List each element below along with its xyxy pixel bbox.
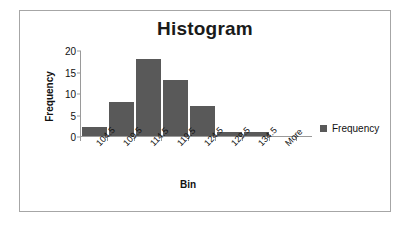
- y-axis-title: Frequency: [42, 55, 56, 137]
- chart-container: Histogram Frequency 05101520 104.5109.51…: [19, 10, 391, 212]
- x-axis-tick-labels: 104.5109.5114.5119.5124.5129.5134.5More: [80, 139, 296, 179]
- bar-114.5: [136, 59, 161, 136]
- legend-swatch-icon: [320, 125, 327, 132]
- axis-area: [80, 51, 296, 137]
- chart-legend: Frequency: [320, 123, 379, 134]
- y-axis-title-label: Frequency: [44, 71, 55, 122]
- y-tick-10: 10: [65, 89, 76, 100]
- x-axis-title: Bin: [80, 179, 296, 190]
- legend-entry-frequency: Frequency: [332, 123, 379, 134]
- y-tick-15: 15: [65, 67, 76, 78]
- bar-series: [81, 51, 296, 136]
- x-axis-line: [80, 136, 312, 137]
- plot-area: Frequency 05101520 104.5109.5114.5119.51…: [44, 51, 314, 151]
- bar-119.5: [163, 80, 188, 136]
- chart-title: Histogram: [20, 18, 390, 40]
- y-tick-20: 20: [65, 46, 76, 57]
- y-tick-0: 0: [70, 132, 76, 143]
- y-axis-tick-labels: 05101520: [56, 51, 78, 137]
- y-tick-5: 5: [70, 110, 76, 121]
